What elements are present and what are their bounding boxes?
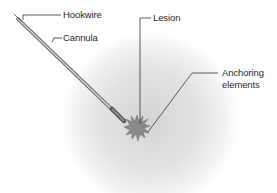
hookwire-leader (23, 15, 61, 20)
hookwire-label: Hookwire (63, 9, 102, 20)
anchoring-label-line1: Anchoring (222, 67, 264, 78)
anchoring-label-line2: elements (222, 79, 260, 90)
cannula-label: Cannula (63, 32, 98, 43)
diagram-canvas: Hookwire Cannula Lesion Anchoring elemen… (0, 0, 277, 193)
tissue-region (62, 32, 238, 193)
cannula-leader (52, 38, 62, 42)
lesion-label: Lesion (153, 12, 180, 23)
illustration (0, 0, 277, 193)
